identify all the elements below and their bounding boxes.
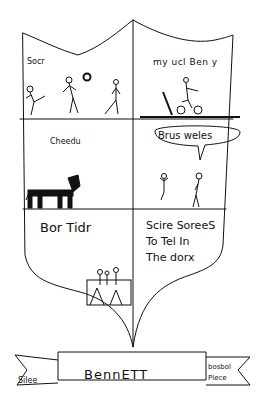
- banner-right-line-2: Plece: [208, 373, 231, 384]
- banner-name: BennETT: [84, 368, 148, 381]
- scire-line-2: To Tel In: [146, 234, 215, 250]
- scire-line-3: The dorx: [146, 250, 215, 266]
- panel-label-scire-sorees: Scire SoreeS To Tel In The dorx: [146, 218, 215, 266]
- soccer-players-icon: [26, 74, 120, 116]
- panel-label-uncle-ben: my ucl Ben y: [153, 58, 218, 67]
- banner-right-line-1: bosbol: [208, 362, 231, 373]
- banner-left-text: Silee: [18, 377, 37, 385]
- panel-label-bor-tidr: Bor Tidr: [40, 221, 91, 234]
- panel-label-cheedu: Cheedu: [50, 138, 81, 146]
- panel-label-socr: Socr: [27, 58, 45, 66]
- bicycle-icon: [140, 78, 240, 118]
- panel-label-brus-weles: Brus weles: [158, 131, 212, 141]
- cheetah-icon: [26, 175, 80, 208]
- figures-box-icon: [87, 268, 131, 306]
- banner-right-text: bosbol Plece: [208, 362, 231, 384]
- scire-line-1: Scire SoreeS: [146, 218, 215, 234]
- shield-outline: [23, 20, 233, 347]
